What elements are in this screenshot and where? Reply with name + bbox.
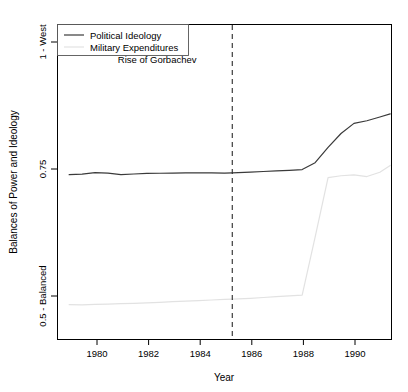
x-axis-title: Year (214, 372, 235, 383)
plot-frame (58, 25, 392, 340)
x-tick-label-1982: 1982 (138, 348, 159, 359)
legend-label-political-ideology: Political Ideology (90, 30, 162, 41)
x-tick-label-1984: 1984 (190, 348, 211, 359)
x-tick-label-1980: 1980 (86, 348, 107, 359)
x-axis-ticks (97, 340, 355, 346)
x-tick-label-1986: 1986 (241, 348, 262, 359)
y-tick-label-05: 0.5 - Balanced (37, 265, 48, 326)
y-axis-ticks (51, 42, 58, 296)
x-tick-label-1990: 1990 (344, 348, 365, 359)
x-tick-label-1988: 1988 (293, 348, 314, 359)
series-line-military-expenditures (69, 165, 390, 305)
y-tick-label-1: 1 - West (37, 24, 48, 60)
chart-container: 1 - West 0.75 0.5 - Balanced Balances of… (0, 0, 408, 392)
line-chart-svg: 1 - West 0.75 0.5 - Balanced Balances of… (0, 0, 408, 392)
y-axis-title: Balances of Power and Ideology (8, 110, 19, 253)
series-line-political-ideology (69, 114, 390, 175)
legend-label-military-expenditures: Military Expenditures (90, 42, 178, 53)
chart-legend[interactable]: Political Ideology Military Expenditures (58, 25, 189, 56)
y-tick-label-075: 0.75 (37, 160, 48, 179)
